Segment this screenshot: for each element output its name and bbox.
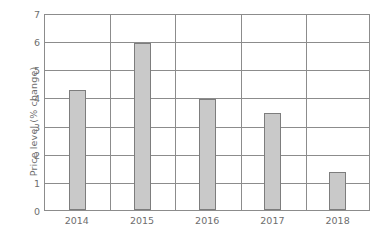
plot-area (44, 14, 370, 211)
bar-2015 (134, 43, 151, 210)
category-separator (241, 15, 242, 210)
y-tick-label: 7 (16, 9, 40, 20)
x-tick-label-2014: 2014 (47, 215, 107, 226)
y-tick-label: 2 (16, 149, 40, 160)
bar-2016 (199, 99, 216, 210)
y-tick-label: 1 (16, 177, 40, 188)
x-tick-label-2015: 2015 (112, 215, 172, 226)
y-tick-label: 5 (16, 65, 40, 76)
x-tick-label-2017: 2017 (242, 215, 302, 226)
y-tick-label: 6 (16, 37, 40, 48)
x-tick-label-2016: 2016 (177, 215, 237, 226)
gridline (45, 70, 369, 71)
category-separator (110, 15, 111, 210)
y-tick-label: 0 (16, 206, 40, 217)
bar-2018 (329, 172, 346, 210)
y-tick-label: 4 (16, 93, 40, 104)
category-separator (306, 15, 307, 210)
x-tick-label-2018: 2018 (308, 215, 368, 226)
gridline (45, 42, 369, 43)
bar-2014 (69, 90, 86, 210)
bar-2017 (264, 113, 281, 211)
y-tick-label: 3 (16, 121, 40, 132)
bar-chart: Price level (% change) 0 1 2 3 4 5 6 7 2… (0, 0, 392, 243)
category-separator (175, 15, 176, 210)
